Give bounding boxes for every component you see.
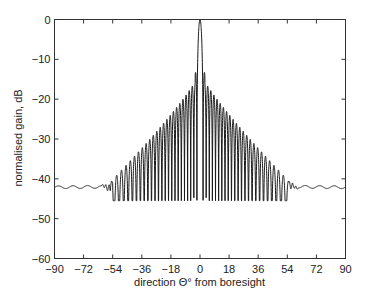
x-tick-label: −36 — [132, 263, 151, 275]
x-tick-label: 0 — [197, 263, 203, 275]
y-tick-label: −60 — [32, 253, 51, 265]
x-tick-label: 72 — [310, 263, 322, 275]
gain-pattern-line — [55, 20, 346, 201]
x-tick-label: 90 — [339, 263, 351, 275]
x-tick-label: 54 — [281, 263, 293, 275]
x-tick-label: −54 — [103, 263, 122, 275]
x-tick-label: −72 — [74, 263, 93, 275]
y-tick-label: −30 — [32, 133, 51, 145]
gain-pattern-chart: −90−72−54−36−1801836547290 0−10−20−30−40… — [0, 0, 368, 304]
y-axis-ticks: 0−10−20−30−40−50−60 — [32, 14, 346, 265]
y-tick-label: −20 — [32, 93, 51, 105]
x-tick-label: 36 — [252, 263, 264, 275]
plot-area — [55, 20, 346, 201]
y-axis-label: normalised gain, dB — [12, 89, 24, 186]
y-tick-label: −40 — [32, 173, 51, 185]
x-tick-label: −18 — [162, 263, 181, 275]
x-axis-label: direction Θ° from boresight — [134, 276, 265, 288]
x-tick-label: 18 — [223, 263, 235, 275]
y-tick-label: −10 — [32, 53, 51, 65]
y-tick-label: −50 — [32, 213, 51, 225]
plot-frame — [55, 20, 346, 259]
y-tick-label: 0 — [44, 14, 50, 26]
x-axis-ticks: −90−72−54−36−1801836547290 — [45, 20, 351, 275]
